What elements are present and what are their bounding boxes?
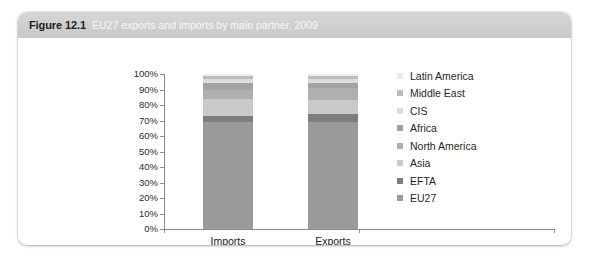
x-axis-tickmark <box>164 229 165 233</box>
legend-item: Africa <box>397 120 547 138</box>
y-axis-tick-label: 0% <box>144 224 158 234</box>
y-axis-line <box>164 74 165 229</box>
legend-item: Latin America <box>397 67 547 85</box>
y-axis-tickmark <box>160 121 164 122</box>
bar-segment <box>203 122 253 229</box>
legend-item: Asia <box>397 155 547 173</box>
y-axis-tick-label: 20% <box>139 193 158 203</box>
legend-label: EU27 <box>410 193 436 204</box>
y-axis-tick-label: 90% <box>139 85 158 95</box>
legend-label: Middle East <box>410 88 465 99</box>
legend-label: Asia <box>410 158 430 169</box>
y-axis-tick-label: 70% <box>139 116 158 126</box>
figure-number: Figure 12.1 <box>29 19 86 31</box>
legend-label: Latin America <box>410 71 474 82</box>
legend-item: Middle East <box>397 85 547 103</box>
bar-segment <box>203 90 253 99</box>
y-axis-tickmark <box>160 167 164 168</box>
stacked-bar-exports <box>308 74 358 229</box>
legend-swatch-icon <box>397 160 403 166</box>
y-axis-tick-label: 100% <box>134 69 158 79</box>
legend-swatch-icon <box>397 73 403 79</box>
bar-segment <box>308 122 358 229</box>
y-axis-tickmark <box>160 152 164 153</box>
y-axis-tickmark <box>160 183 164 184</box>
stacked-bar-imports <box>203 74 253 229</box>
figure-caption: EU27 exports and imports by main partner… <box>92 19 318 31</box>
y-axis-tick-label: 80% <box>139 100 158 110</box>
legend-item: EFTA <box>397 172 547 190</box>
legend-swatch-icon <box>397 90 403 96</box>
figure-card: Figure 12.1 EU27 exports and imports by … <box>18 12 571 245</box>
legend-item: CIS <box>397 102 547 120</box>
y-axis-tick-label: 60% <box>139 131 158 141</box>
x-axis-tickmark <box>554 229 555 233</box>
y-axis-tickmark <box>160 198 164 199</box>
y-axis-tick-label: 10% <box>139 209 158 219</box>
x-axis-label-imports: Imports <box>173 235 283 245</box>
y-axis-tickmark <box>160 214 164 215</box>
legend-label: EFTA <box>410 176 436 187</box>
legend-swatch-icon <box>397 195 403 201</box>
bar-segment <box>308 114 358 122</box>
y-axis-labels: 100%90%80%70%60%50%40%30%20%10%0% <box>113 38 158 245</box>
y-axis-tick-label: 30% <box>139 178 158 188</box>
chart-plot-area: 100%90%80%70%60%50%40%30%20%10%0% Import… <box>18 38 571 245</box>
legend-label: CIS <box>410 106 428 117</box>
legend-swatch-icon <box>397 143 403 149</box>
y-axis-tickmark <box>160 74 164 75</box>
legend-swatch-icon <box>397 108 403 114</box>
y-axis-tick-label: 50% <box>139 147 158 157</box>
figure-header: Figure 12.1 EU27 exports and imports by … <box>18 12 571 38</box>
bar-segment <box>308 88 358 100</box>
x-axis-label-exports: Exports <box>278 235 388 245</box>
legend-label: North America <box>410 141 477 152</box>
x-axis-tickmark <box>359 229 360 233</box>
legend-swatch-icon <box>397 125 403 131</box>
y-axis-tickmark <box>160 136 164 137</box>
legend-swatch-icon <box>397 178 403 184</box>
y-axis-tick-label: 40% <box>139 162 158 172</box>
legend-label: Africa <box>410 123 437 134</box>
legend-item: North America <box>397 137 547 155</box>
y-axis-tickmark <box>160 90 164 91</box>
bar-segment <box>203 99 253 116</box>
y-axis-tickmark <box>160 105 164 106</box>
chart-legend: Latin AmericaMiddle EastCISAfricaNorth A… <box>397 67 547 207</box>
bar-segment <box>308 100 358 114</box>
legend-item: EU27 <box>397 190 547 208</box>
